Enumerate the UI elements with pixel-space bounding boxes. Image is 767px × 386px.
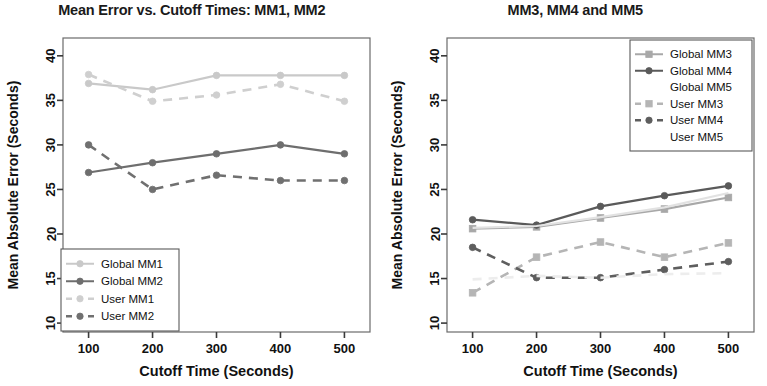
data-point-marker — [725, 183, 732, 190]
panel-left-plot: 10152025303540100200300400500Cutoff Time… — [0, 0, 383, 386]
y-axis-tick-label: 25 — [427, 182, 442, 196]
x-axis-tick-label: 300 — [589, 341, 611, 356]
x-axis-label: Cutoff Time (Seconds) — [139, 363, 294, 379]
data-point-marker — [341, 72, 348, 79]
legend-label: User MM4 — [670, 114, 724, 126]
legend: Global MM3Global MM4Global MM5User MM3Us… — [630, 40, 752, 151]
data-point-marker — [341, 177, 348, 184]
y-axis-tick-label: 25 — [44, 182, 59, 196]
data-point-marker — [725, 258, 732, 265]
x-axis-tick-label: 100 — [78, 341, 100, 356]
data-point-marker — [213, 172, 220, 179]
y-axis-tick-label: 10 — [427, 316, 442, 330]
legend-marker — [77, 261, 83, 267]
data-point-marker — [469, 244, 476, 251]
y-axis-tick-label: 20 — [44, 227, 59, 241]
data-point-marker — [277, 72, 284, 79]
data-point-marker — [213, 92, 220, 99]
y-axis-tick-label: 40 — [427, 49, 442, 63]
series-group — [469, 183, 731, 297]
legend-label: Global MM4 — [670, 65, 733, 77]
series-line — [89, 145, 345, 173]
y-axis-tick-label: 15 — [427, 271, 442, 285]
legend-label: Global MM2 — [101, 275, 163, 287]
legend-label: Global MM3 — [670, 48, 732, 60]
y-axis-tick-label: 20 — [427, 227, 442, 241]
y-axis-tick-label: 40 — [44, 49, 59, 63]
y-axis-label: Mean Absolute Error (Seconds) — [389, 81, 405, 290]
data-point-marker — [725, 194, 732, 201]
x-axis-tick-label: 300 — [206, 341, 228, 356]
data-point-marker — [341, 151, 348, 158]
x-axis-tick-label: 200 — [142, 341, 164, 356]
data-point-marker — [533, 254, 540, 261]
data-point-marker — [277, 177, 284, 184]
legend-marker — [645, 51, 651, 57]
legend-marker — [645, 101, 651, 107]
panel-right-plot: 10152025303540100200300400500Cutoff Time… — [384, 0, 767, 386]
data-point-marker — [213, 72, 220, 79]
legend-label: User MM1 — [101, 293, 154, 305]
data-point-marker — [277, 142, 284, 149]
legend: Global MM1Global MM2User MM1User MM2 — [61, 249, 179, 331]
legend-marker — [645, 68, 651, 74]
legend-label: User MM5 — [670, 131, 723, 143]
data-point-marker — [469, 290, 476, 297]
x-axis-tick-label: 200 — [525, 341, 547, 356]
y-axis-tick-label: 30 — [44, 138, 59, 152]
data-point-marker — [661, 254, 668, 261]
x-axis-tick-label: 500 — [334, 341, 356, 356]
y-axis-tick-label: 35 — [44, 93, 59, 107]
y-axis-tick-label: 30 — [427, 138, 442, 152]
data-point-marker — [149, 186, 156, 193]
data-point-marker — [149, 86, 156, 93]
legend-label: User MM3 — [670, 98, 723, 110]
data-point-marker — [149, 159, 156, 166]
series-user-mm4 — [469, 244, 731, 281]
data-point-marker — [85, 71, 92, 78]
y-axis-label: Mean Absolute Error (Seconds) — [5, 81, 21, 290]
data-point-marker — [661, 192, 668, 199]
legend-label: Global MM1 — [101, 258, 163, 270]
data-point-marker — [341, 98, 348, 105]
data-point-marker — [149, 98, 156, 105]
data-point-marker — [661, 266, 668, 273]
data-point-marker — [277, 81, 284, 88]
data-point-marker — [597, 203, 604, 210]
data-point-marker — [85, 80, 92, 87]
legend-label: Global MM5 — [670, 81, 732, 93]
legend-item[interactable]: Global MM5 — [670, 81, 732, 93]
data-point-marker — [725, 240, 732, 247]
y-axis-tick-label: 10 — [44, 316, 59, 330]
legend-marker — [77, 278, 83, 284]
data-point-marker — [469, 216, 476, 223]
figure-container: Mean Error vs. Cutoff Times: MM1, MM2 10… — [0, 0, 767, 386]
legend-marker — [77, 296, 83, 302]
series-group — [85, 71, 347, 193]
data-point-marker — [597, 239, 604, 246]
data-point-marker — [85, 142, 92, 149]
x-axis-label: Cutoff Time (Seconds) — [523, 363, 678, 379]
x-axis-tick-label: 400 — [270, 341, 292, 356]
legend-marker — [77, 313, 83, 319]
y-axis-tick-label: 35 — [427, 93, 442, 107]
y-axis-tick-label: 15 — [44, 271, 59, 285]
series-global-mm2 — [85, 142, 347, 176]
legend-marker — [645, 117, 651, 123]
data-point-marker — [213, 151, 220, 158]
legend-item[interactable]: User MM5 — [670, 131, 723, 143]
data-point-marker — [85, 169, 92, 176]
x-axis-tick-label: 100 — [461, 341, 483, 356]
panel-left: Mean Error vs. Cutoff Times: MM1, MM2 10… — [0, 0, 384, 386]
panel-right: MM3, MM4 and MM5 10152025303540100200300… — [384, 0, 767, 386]
x-axis-tick-label: 500 — [717, 341, 739, 356]
x-axis-tick-label: 400 — [653, 341, 675, 356]
legend-label: User MM2 — [101, 310, 154, 322]
